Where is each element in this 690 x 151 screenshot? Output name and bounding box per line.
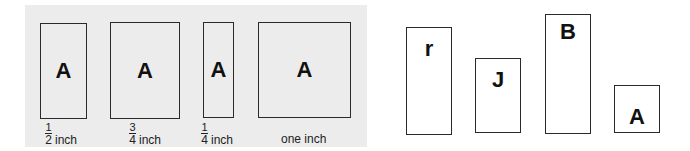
box-letter-a: A bbox=[614, 85, 660, 133]
label-one-inch: one inch bbox=[281, 133, 326, 145]
box-quarter-inch: A bbox=[203, 22, 234, 118]
box-letter: A bbox=[56, 58, 72, 84]
box-letter: J bbox=[492, 67, 504, 93]
box-letter: A bbox=[297, 57, 313, 83]
box-letter-b: B bbox=[545, 14, 591, 134]
box-three-quarter-inch: A bbox=[110, 22, 180, 119]
box-letter: A bbox=[211, 57, 227, 83]
label-three-quarter-inch: 34inch bbox=[129, 122, 161, 146]
box-letter-j: J bbox=[475, 58, 521, 133]
box-letter: A bbox=[629, 104, 645, 130]
fraction: 14 bbox=[201, 122, 208, 146]
box-letter: A bbox=[137, 58, 153, 84]
box-letter: B bbox=[560, 19, 576, 45]
fraction: 34 bbox=[129, 122, 136, 146]
label-quarter-inch: 14inch bbox=[201, 122, 233, 146]
box-half-inch: A bbox=[40, 23, 87, 119]
box-one-inch: A bbox=[258, 22, 351, 118]
label-half-inch: 12inch bbox=[45, 122, 77, 146]
box-letter: r bbox=[425, 36, 434, 62]
fraction: 12 bbox=[45, 122, 52, 146]
box-letter-r: r bbox=[406, 27, 452, 135]
